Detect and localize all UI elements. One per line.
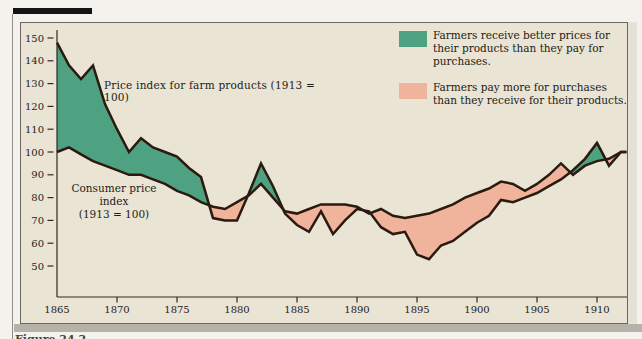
y-tick-label: 100 bbox=[25, 147, 44, 158]
x-tick-label: 1895 bbox=[404, 304, 429, 315]
consumer-label-line2: (1913 = 100) bbox=[60, 208, 168, 221]
y-tick-label: 140 bbox=[25, 55, 44, 66]
x-tick-label: 1900 bbox=[464, 304, 489, 315]
page-edge-shadow bbox=[14, 324, 642, 332]
legend-swatch-green-icon bbox=[399, 31, 427, 47]
x-tick-label: 1875 bbox=[164, 304, 189, 315]
chart-legend: Farmers receive better prices for their … bbox=[399, 29, 635, 133]
legend-swatch-pink-icon bbox=[399, 83, 427, 99]
legend-label-pink: Farmers pay more for purchases than they… bbox=[433, 81, 631, 107]
y-tick-label: 50 bbox=[31, 261, 44, 272]
figure-caption: Figure 24.2 bbox=[15, 333, 215, 339]
y-tick-label: 70 bbox=[31, 215, 44, 226]
farm-line-label: Price index for farm products (1913 = 10… bbox=[104, 79, 334, 103]
consumer-line-label: Consumer price index (1913 = 100) bbox=[60, 182, 168, 221]
consumer-label-line1: Consumer price index bbox=[60, 182, 168, 208]
y-tick-label: 90 bbox=[31, 169, 44, 180]
x-tick-label: 1890 bbox=[344, 304, 369, 315]
x-tick-label: 1905 bbox=[524, 304, 549, 315]
y-tick-label: 110 bbox=[25, 124, 44, 135]
x-tick-label: 1880 bbox=[224, 304, 249, 315]
y-tick-label: 60 bbox=[31, 238, 44, 249]
x-tick-label: 1865 bbox=[44, 304, 69, 315]
x-tick-label: 1870 bbox=[104, 304, 129, 315]
legend-item-pink: Farmers pay more for purchases than they… bbox=[399, 81, 635, 119]
y-tick-label: 120 bbox=[25, 101, 44, 112]
y-tick-label: 80 bbox=[31, 192, 44, 203]
x-tick-label: 1885 bbox=[284, 304, 309, 315]
legend-item-green: Farmers receive better prices for their … bbox=[399, 29, 635, 67]
y-tick-label: 150 bbox=[25, 33, 44, 44]
y-tick-label: 130 bbox=[25, 78, 44, 89]
legend-label-green: Farmers receive better prices for their … bbox=[433, 29, 631, 67]
x-tick-label: 1910 bbox=[584, 304, 609, 315]
